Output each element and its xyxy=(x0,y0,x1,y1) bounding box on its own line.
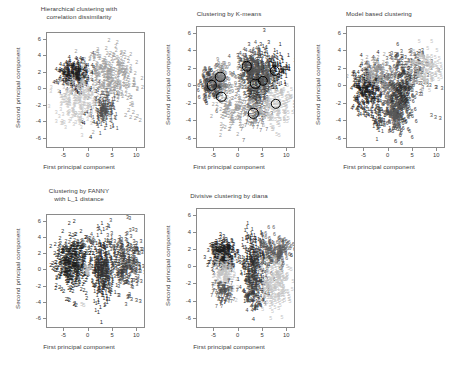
data-point: 2 xyxy=(378,65,381,70)
data-point: 5 xyxy=(423,78,426,83)
data-point: 3 xyxy=(256,89,259,94)
data-point: 3 xyxy=(418,67,421,72)
data-point: 1 xyxy=(102,284,105,289)
data-point: 8 xyxy=(257,69,260,74)
data-point: 2 xyxy=(228,102,231,107)
data-point-outlier: 1 xyxy=(288,67,291,73)
data-point: 3 xyxy=(68,98,71,103)
data-point: 6 xyxy=(411,109,414,114)
data-point: 2 xyxy=(241,106,244,111)
data-point: 2 xyxy=(219,261,222,266)
data-point: 4 xyxy=(251,58,254,63)
data-point: 2 xyxy=(366,60,369,65)
data-point: 2 xyxy=(60,272,63,277)
data-point: 3 xyxy=(246,89,249,94)
data-point: 7 xyxy=(388,74,391,79)
y-tickmark xyxy=(43,221,46,222)
data-point: 5 xyxy=(416,67,419,72)
data-point: 7 xyxy=(217,287,220,292)
data-point: 4 xyxy=(77,69,80,74)
data-point: 2 xyxy=(118,64,121,69)
data-point: 1 xyxy=(99,256,102,261)
data-point: 3 xyxy=(58,114,61,119)
data-point: 4 xyxy=(62,75,65,80)
data-point: 1 xyxy=(248,272,251,277)
data-point: 2 xyxy=(133,83,136,88)
data-point-outlier: 7 xyxy=(242,138,245,144)
data-point: 8 xyxy=(255,69,258,74)
data-point: 6 xyxy=(269,242,272,247)
data-point: 3 xyxy=(404,78,407,83)
data-point: 5 xyxy=(412,53,415,58)
data-point: 3 xyxy=(414,56,417,61)
data-point: 3 xyxy=(254,96,257,101)
data-point: 5 xyxy=(269,278,272,283)
data-point: 6 xyxy=(395,124,398,129)
data-point: 5 xyxy=(259,299,262,304)
data-point: 2 xyxy=(80,257,83,262)
x-tick-label: -5 xyxy=(61,332,66,338)
data-point: 4 xyxy=(83,68,86,73)
data-point: 2 xyxy=(93,57,96,62)
data-point: 5 xyxy=(430,75,433,80)
data-point: 6 xyxy=(290,253,293,258)
data-point: 6 xyxy=(282,250,285,255)
data-point: 4 xyxy=(251,67,254,72)
data-point: 1 xyxy=(254,259,257,264)
data-point: 7 xyxy=(244,112,247,117)
data-point: 1 xyxy=(110,119,113,124)
data-point: 8 xyxy=(258,66,261,71)
panel-diana: Divisive clustering by diana333333333333… xyxy=(154,184,304,364)
data-point-outlier: 6 xyxy=(202,75,205,81)
data-point: 2 xyxy=(129,65,132,70)
data-point: 6 xyxy=(402,86,405,91)
data-point: 1 xyxy=(251,261,254,266)
data-point: 4 xyxy=(375,96,378,101)
data-point: 5 xyxy=(283,120,286,125)
data-point: 6 xyxy=(270,247,273,252)
data-point: 4 xyxy=(368,65,371,70)
data-point: 2 xyxy=(53,252,56,257)
data-point: 7 xyxy=(378,96,381,101)
data-point: 1 xyxy=(109,255,112,260)
data-point: 1 xyxy=(254,272,257,277)
data-point: 5 xyxy=(282,103,285,108)
data-point: 2 xyxy=(100,66,103,71)
data-point: 9 xyxy=(224,65,227,70)
data-point: 1 xyxy=(105,251,108,256)
data-point: 3 xyxy=(228,244,231,249)
data-point: 5 xyxy=(278,276,281,281)
data-point: 2 xyxy=(60,271,63,276)
data-point: 2 xyxy=(122,82,125,87)
data-point: 2 xyxy=(105,95,108,100)
data-point: 5 xyxy=(269,277,272,282)
data-point: 9 xyxy=(234,76,237,81)
data-point: 1 xyxy=(278,60,281,65)
data-point: 4 xyxy=(250,291,253,296)
data-point: 2 xyxy=(66,258,69,263)
data-point-outlier: 5 xyxy=(269,116,272,122)
data-point: 2 xyxy=(126,65,129,70)
data-point: 1 xyxy=(96,265,99,270)
data-point: 2 xyxy=(226,106,229,111)
data-point: 2 xyxy=(61,246,64,251)
data-point: 4 xyxy=(371,85,374,90)
data-point: 2 xyxy=(218,270,221,275)
data-point: 5 xyxy=(423,76,426,81)
data-point: 6 xyxy=(405,98,408,103)
data-point: 1 xyxy=(98,267,101,272)
data-point: 1 xyxy=(101,107,104,112)
data-point: 4 xyxy=(366,85,369,90)
data-point: 2 xyxy=(366,55,369,60)
data-point: 1 xyxy=(248,287,251,292)
data-point: 2 xyxy=(78,246,81,251)
data-point: 2 xyxy=(84,255,87,260)
data-point: 3 xyxy=(131,269,134,274)
data-point: 6 xyxy=(270,245,273,250)
data-point: 1 xyxy=(280,70,283,75)
data-point: 4 xyxy=(248,290,251,295)
y-axis-label: Second principal component xyxy=(164,44,171,125)
data-point: 2 xyxy=(116,98,119,103)
data-point: 4 xyxy=(372,55,375,60)
data-point: 3 xyxy=(130,278,133,283)
